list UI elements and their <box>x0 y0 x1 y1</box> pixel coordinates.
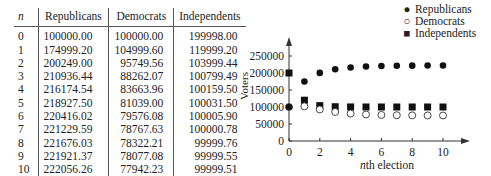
republicans-point <box>332 66 339 73</box>
chart-legend: ● Republicans ○ Democrats ■ Independents <box>402 3 476 40</box>
democrats-point <box>301 103 308 110</box>
y-tick-label: 0 <box>278 135 284 147</box>
legend-item-democrats: ○ Democrats <box>402 15 476 27</box>
democrats-point <box>332 108 339 115</box>
x-tick-label: 2 <box>317 146 323 158</box>
legend-item-independents: ■ Independents <box>402 27 476 39</box>
independents-point <box>347 103 354 110</box>
y-axis-arrow-icon <box>286 37 292 46</box>
x-tick-label: 10 <box>437 146 449 158</box>
independents-point <box>378 103 385 110</box>
x-tick-label: 8 <box>409 146 415 158</box>
republicans-point <box>394 62 401 69</box>
republicans-point <box>424 62 431 69</box>
independents-point <box>409 104 416 111</box>
republicans-point <box>440 62 447 69</box>
republicans-point <box>363 63 370 70</box>
x-axis-label: nth election <box>360 159 414 171</box>
y-tick-label: 200000 <box>250 67 285 79</box>
y-axis-label: Voters <box>238 72 250 100</box>
democrats-point <box>440 112 447 119</box>
republicans-point <box>409 62 416 69</box>
democrats-point <box>347 110 354 117</box>
y-tick-label: 100000 <box>250 101 285 113</box>
democrats-point <box>409 112 416 119</box>
y-tick-label: 150000 <box>250 84 285 96</box>
independents-point <box>424 104 431 111</box>
democrats-point <box>424 112 431 119</box>
republicans-point <box>378 63 385 70</box>
open-circle-icon: ○ <box>402 15 412 27</box>
independents-point <box>363 103 370 110</box>
y-tick-label: 250000 <box>250 50 285 62</box>
legend-item-republicans: ● Republicans <box>402 3 476 15</box>
independents-point <box>393 103 400 110</box>
filled-circle-icon: ● <box>402 3 412 15</box>
democrats-point <box>316 106 323 113</box>
democrats-point <box>378 111 385 118</box>
republicans-point <box>301 78 308 85</box>
y-tick-label: 50000 <box>255 118 284 130</box>
filled-square-icon: ■ <box>402 27 412 39</box>
republicans-point <box>347 64 354 71</box>
republicans-point <box>286 104 293 111</box>
independents-point <box>440 104 447 111</box>
republicans-point <box>317 70 324 77</box>
democrats-point <box>393 112 400 119</box>
x-axis-arrow-icon <box>461 138 470 144</box>
x-tick-label: 0 <box>286 146 292 158</box>
independents-point <box>286 70 293 77</box>
x-tick-label: 4 <box>348 146 354 158</box>
x-tick-label: 6 <box>379 146 385 158</box>
democrats-point <box>363 111 370 118</box>
